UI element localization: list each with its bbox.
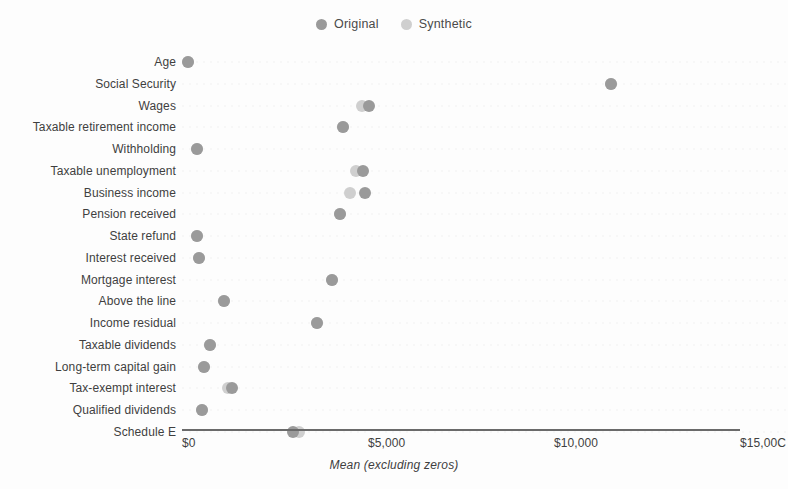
data-point-original[interactable] <box>359 187 371 199</box>
y-axis-labels: AgeSocial SecurityWagesTaxable retiremen… <box>0 0 176 489</box>
data-point-synthetic[interactable] <box>344 187 356 199</box>
data-point-original[interactable] <box>191 143 203 155</box>
data-point-original[interactable] <box>334 208 346 220</box>
gridline-row <box>182 127 788 128</box>
gridline-row <box>182 431 788 432</box>
y-axis-label: Social Security <box>95 78 176 90</box>
gridline-row <box>182 62 788 63</box>
x-axis-tick-label: $5,000 <box>368 436 405 450</box>
data-panel <box>182 0 788 489</box>
data-point-original[interactable] <box>363 100 375 112</box>
y-axis-label: Withholding <box>112 143 176 155</box>
y-axis-label: Above the line <box>99 295 176 307</box>
gridline-row <box>182 344 788 345</box>
data-point-original[interactable] <box>193 252 205 264</box>
data-point-original[interactable] <box>326 274 338 286</box>
x-axis-tick-label: $15,00C <box>740 436 786 450</box>
gridline-row <box>182 236 788 237</box>
chart-page: Original Synthetic AgeSocial SecurityWag… <box>0 0 788 489</box>
data-point-original[interactable] <box>191 230 203 242</box>
x-axis-title: Mean (excluding zeros) <box>0 458 788 472</box>
gridline-row <box>182 301 788 302</box>
data-point-original[interactable] <box>182 56 194 68</box>
y-axis-label: Age <box>154 56 176 68</box>
data-point-original[interactable] <box>218 295 230 307</box>
y-axis-label: Mortgage interest <box>81 274 176 286</box>
gridline-row <box>182 214 788 215</box>
x-axis-line <box>182 429 740 431</box>
x-axis-tick-label: $10,000 <box>554 436 598 450</box>
gridline-row <box>182 366 788 367</box>
gridline-row <box>182 410 788 411</box>
data-point-original[interactable] <box>287 426 299 438</box>
gridline-row <box>182 192 788 193</box>
y-axis-label: Taxable unemployment <box>51 165 176 177</box>
y-axis-label: Taxable retirement income <box>33 121 176 133</box>
x-axis-tick-label: $0 <box>182 436 196 450</box>
plot-area: AgeSocial SecurityWagesTaxable retiremen… <box>0 0 788 489</box>
y-axis-label: Income residual <box>90 317 176 329</box>
y-axis-label: Tax-exempt interest <box>69 382 176 394</box>
data-point-original[interactable] <box>357 165 369 177</box>
y-axis-label: Pension received <box>82 208 176 220</box>
y-axis-label: Interest received <box>86 252 176 264</box>
gridline-row <box>182 279 788 280</box>
data-point-original[interactable] <box>337 121 349 133</box>
data-point-original[interactable] <box>204 339 216 351</box>
data-point-original[interactable] <box>196 404 208 416</box>
y-axis-label: State refund <box>109 230 176 242</box>
gridline-row <box>182 149 788 150</box>
data-point-original[interactable] <box>198 361 210 373</box>
gridline-row <box>182 83 788 84</box>
y-axis-label: Schedule E <box>114 426 176 438</box>
data-point-original[interactable] <box>311 317 323 329</box>
gridline-row <box>182 170 788 171</box>
gridline-row <box>182 105 788 106</box>
data-point-original[interactable] <box>226 382 238 394</box>
y-axis-label: Business income <box>84 187 176 199</box>
data-point-original[interactable] <box>605 78 617 90</box>
y-axis-label: Taxable dividends <box>79 339 176 351</box>
y-axis-label: Long-term capital gain <box>55 361 176 373</box>
gridline-row <box>182 257 788 258</box>
y-axis-label: Wages <box>139 100 176 112</box>
gridline-row <box>182 323 788 324</box>
gridline-row <box>182 388 788 389</box>
y-axis-label: Qualified dividends <box>73 404 176 416</box>
